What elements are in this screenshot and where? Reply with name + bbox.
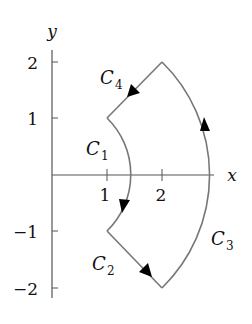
svg-text:4: 4 (115, 78, 123, 92)
label-c3: C 3 (211, 228, 234, 253)
svg-text:C: C (92, 253, 106, 274)
x-tick-label-1: 1 (100, 185, 111, 205)
svg-text:3: 3 (226, 239, 234, 253)
y-tick-label-neg1: −1 (13, 222, 38, 242)
y-tick-label-neg2: −2 (13, 279, 38, 299)
label-c4: C 4 (100, 67, 123, 92)
arrow-c1-icon (119, 199, 130, 213)
svg-text:1: 1 (101, 149, 109, 163)
x-axis-label: x (227, 165, 237, 185)
y-axis-label: y (46, 21, 57, 41)
y-tick-label-2: 2 (27, 53, 38, 73)
svg-text:C: C (100, 67, 114, 88)
x-tick-label-2: 2 (156, 185, 167, 205)
contour-diagram: 2 1 −1 −2 1 2 y x C 4 C 1 C 2 C 3 (0, 0, 252, 324)
svg-text:2: 2 (107, 264, 115, 278)
y-tick-label-1: 1 (27, 109, 38, 129)
curve-c2 (107, 231, 162, 288)
label-c2: C 2 (92, 253, 115, 278)
svg-text:C: C (211, 228, 225, 249)
label-c1: C 1 (86, 138, 109, 163)
svg-text:C: C (86, 138, 100, 159)
